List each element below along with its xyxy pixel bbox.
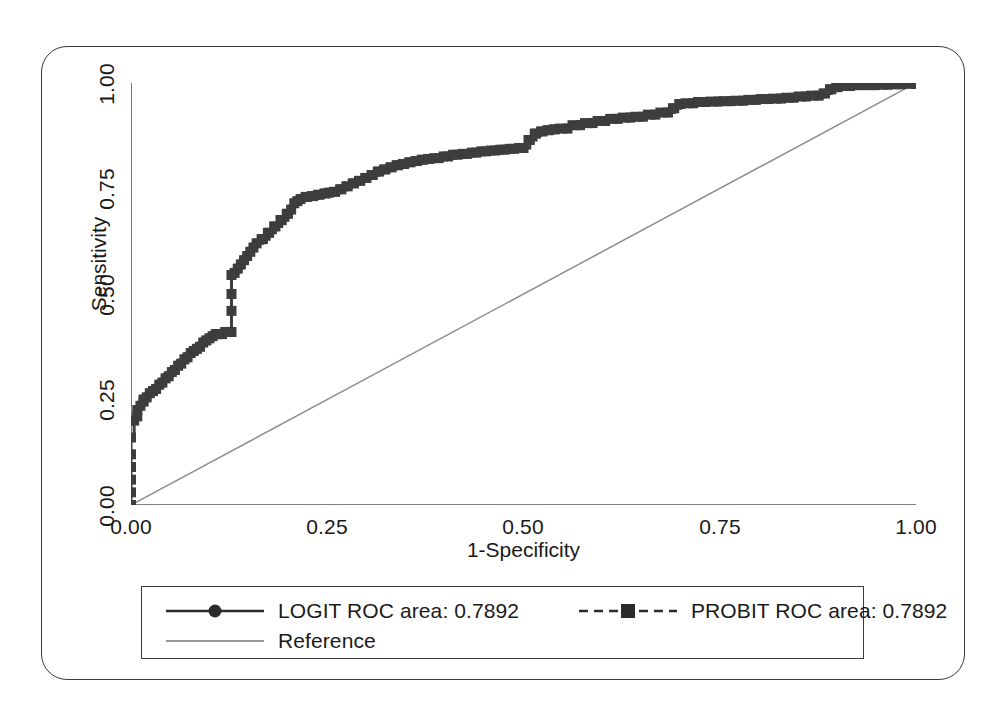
- legend-label-reference: Reference: [278, 629, 376, 653]
- y-tick-label-1.00: 1.00: [86, 72, 128, 96]
- x-tick-label-0.00: 0.00: [91, 515, 171, 539]
- x-tick-label-0.50: 0.50: [483, 515, 563, 539]
- solid-line-circle-marker-icon: [164, 600, 266, 622]
- legend-entry-logit[interactable]: LOGIT ROC area: 0.7892: [164, 595, 519, 627]
- y-tick-label-0.50: 0.50: [86, 283, 128, 307]
- thin-gray-line-icon: [164, 630, 266, 652]
- y-axis-title: Sensitivity: [52, 252, 76, 276]
- y-tick-label-0.75: 0.75: [86, 177, 128, 201]
- legend-label-probit: PROBIT ROC area: 0.7892: [691, 599, 947, 623]
- x-tick-label-0.75: 0.75: [680, 515, 760, 539]
- plot-area: [131, 83, 916, 505]
- dashed-line-square-marker-icon: [577, 600, 679, 622]
- x-axis-title: 1-Specificity: [131, 538, 916, 562]
- legend-entry-reference[interactable]: Reference: [164, 625, 376, 657]
- y-tick-label-0.25: 0.25: [86, 388, 128, 412]
- legend-box: LOGIT ROC area: 0.7892 PROBIT ROC area: …: [141, 586, 864, 659]
- x-tick-label-1.00: 1.00: [876, 515, 956, 539]
- legend-entry-probit[interactable]: PROBIT ROC area: 0.7892: [577, 595, 947, 627]
- x-tick-label-0.25: 0.25: [287, 515, 367, 539]
- legend-label-logit: LOGIT ROC area: 0.7892: [278, 599, 519, 623]
- roc-plot-svg: [131, 83, 916, 505]
